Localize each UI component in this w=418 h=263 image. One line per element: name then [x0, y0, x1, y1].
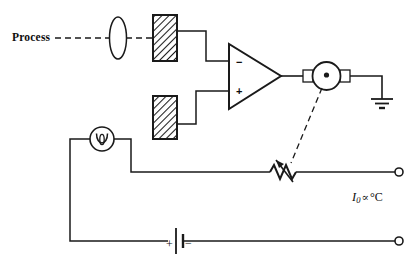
lamp-source	[90, 127, 114, 151]
photodetector-reference	[153, 96, 177, 139]
ground-symbol	[371, 99, 393, 108]
wire-bottom-detector-to-opamp	[177, 91, 228, 124]
diagram-canvas	[0, 0, 418, 263]
photodetector-signal	[153, 15, 177, 61]
output-current-label: I0∝°C	[352, 191, 383, 205]
wire-lamp-left-loop	[70, 139, 168, 241]
battery-plus-label: +	[166, 238, 173, 250]
opamp-noninverting-input-label: +	[236, 85, 242, 97]
opamp-inverting-input-label: −	[236, 56, 242, 68]
proportional-icon: ∝	[360, 191, 369, 203]
battery-minus-label: −	[185, 237, 192, 249]
output-current-units: °C	[370, 190, 383, 204]
output-terminal-top	[395, 168, 403, 176]
operational-amplifier	[229, 44, 281, 109]
process-label: Process	[12, 32, 50, 44]
wire-meter-to-ground	[350, 76, 382, 99]
mechanical-linkage-dashed	[291, 88, 322, 163]
wire-lamp-right-to-signal-line	[114, 139, 270, 172]
output-terminal-bottom	[395, 237, 403, 245]
battery-cell	[176, 228, 183, 254]
lens-ellipse	[110, 17, 127, 59]
meter-galvanometer	[303, 62, 350, 90]
variable-resistor	[270, 160, 296, 182]
circuit-diagram: Process I0∝°C + − − +	[0, 0, 418, 263]
wire-top-detector-to-opamp	[177, 31, 228, 61]
